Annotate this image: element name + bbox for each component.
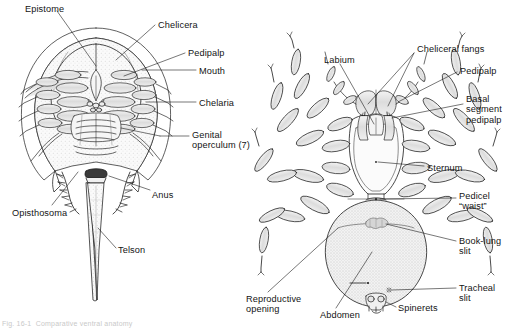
- label-anus: Anus: [152, 190, 173, 200]
- label-spinerets: Spinerets: [398, 303, 438, 313]
- label-abdomen: Abdomen: [320, 310, 360, 320]
- label-book-lung-slit: Book-lung slit: [459, 236, 501, 257]
- label-pedicel-waist: Pedicel “waist”: [459, 191, 490, 212]
- label-pedipalp-crab: Pedipalp: [188, 48, 225, 58]
- label-telson: Telson: [118, 245, 145, 255]
- label-pedipalp-spider: Pedipalp: [460, 66, 497, 76]
- label-sternum: Sternum: [427, 163, 462, 173]
- label-labium: Labium: [324, 55, 355, 65]
- label-mouth: Mouth: [199, 66, 225, 76]
- label-opisthosoma: Opisthosoma: [12, 208, 67, 218]
- label-genital-operculum: Genital operculum (7): [192, 130, 250, 151]
- horseshoe-crab-drawing: [19, 11, 196, 301]
- label-tracheal-slit: Tracheal slit: [459, 283, 495, 304]
- label-chelicera: Chelicera: [158, 20, 198, 30]
- label-epistome: Epistome: [25, 4, 64, 14]
- label-cheliceral-fangs: Cheliceral fangs: [417, 44, 484, 54]
- label-chelaria: Chelaria: [199, 98, 234, 108]
- label-basal-segment-pedipalp: Basal segment pedipalp: [466, 94, 502, 125]
- figure-caption: Fig. 16-1 Comparative ventral anatomy: [2, 320, 133, 327]
- figure-canvas: Epistome Chelicera Pedipalp Mouth Chelar…: [0, 0, 522, 330]
- label-reproductive-opening: Reproductive opening: [246, 294, 301, 315]
